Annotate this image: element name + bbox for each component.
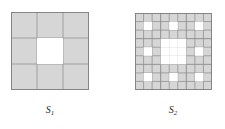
- figure-stage: S1 S2: [0, 0, 225, 129]
- fractal-hole-cell: [169, 22, 178, 31]
- fractal-hole-cell: [178, 47, 187, 56]
- fractal-hole-cell: [169, 47, 178, 56]
- fractal-hole-cell: [195, 73, 204, 82]
- figure-label-s2-subscript: 2: [174, 109, 178, 117]
- figure-label-s1: S1: [25, 105, 75, 117]
- fractal-hole-cell: [37, 38, 63, 64]
- figure-label-s2: S2: [148, 105, 198, 117]
- sierpinski-canvas-s1: [11, 12, 89, 90]
- fractal-hole-cell: [169, 39, 178, 48]
- fractal-hole-cell: [195, 47, 204, 56]
- sierpinski-figure-s1: [11, 12, 89, 90]
- fractal-hole-cell: [161, 39, 170, 48]
- sierpinski-canvas-s2: [135, 13, 212, 90]
- fractal-hole-cell: [161, 56, 170, 65]
- fractal-hole-cell: [161, 47, 170, 56]
- fractal-hole-cell: [144, 47, 153, 56]
- fractal-hole-cell: [178, 39, 187, 48]
- fractal-hole-cell: [178, 56, 187, 65]
- fractal-hole-cell: [144, 22, 153, 31]
- fractal-hole-cell: [169, 56, 178, 65]
- fractal-hole-cell: [144, 73, 153, 82]
- figure-label-s1-subscript: 1: [51, 109, 55, 117]
- fractal-hole-cell: [169, 73, 178, 82]
- sierpinski-figure-s2: [135, 13, 212, 90]
- fractal-hole-cell: [195, 22, 204, 31]
